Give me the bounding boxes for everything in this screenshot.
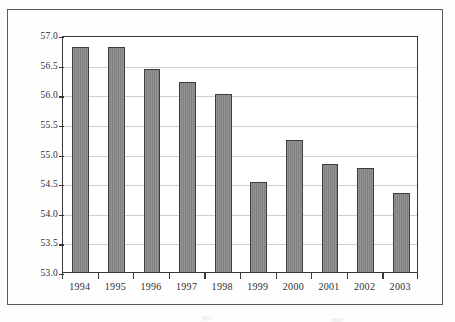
y-axis-label: 56.0 <box>4 90 58 100</box>
bar <box>250 182 267 272</box>
y-axis-label: 53.5 <box>4 238 58 248</box>
bar <box>144 69 161 272</box>
y-axis-label: 57.0 <box>4 31 58 41</box>
scanned-page: 57.056.556.055.555.054.554.053.553.0 199… <box>0 0 455 322</box>
y-axis-label: 53.0 <box>4 268 58 278</box>
bar <box>108 47 125 272</box>
y-axis-label: 54.5 <box>4 179 58 189</box>
x-tickmark <box>240 273 241 279</box>
y-axis-label: 55.0 <box>4 150 58 160</box>
y-axis-label: 55.5 <box>4 120 58 130</box>
x-tickmark <box>276 273 277 279</box>
x-axis-label: 1997 <box>176 281 197 292</box>
bar <box>179 82 196 272</box>
bar-chart: 57.056.556.055.555.054.554.053.553.0 199… <box>0 0 455 322</box>
x-tickmark <box>62 273 63 279</box>
y-axis-label: 54.0 <box>4 209 58 219</box>
y-tickmark <box>59 96 64 97</box>
x-axis-label: 1998 <box>212 281 233 292</box>
x-tickmark <box>382 273 383 279</box>
y-tickmark <box>59 244 64 245</box>
x-axis-label: 1995 <box>105 281 126 292</box>
x-axis-tickmarks <box>62 273 418 280</box>
y-axis: 57.056.556.055.555.054.554.053.553.0 <box>0 0 58 322</box>
bar <box>357 168 374 272</box>
x-axis: 1994199519961997199819992000200120022003 <box>62 281 418 301</box>
x-tickmark <box>347 273 348 279</box>
y-tickmark <box>59 67 64 68</box>
x-tickmark <box>133 273 134 279</box>
x-axis-label: 1994 <box>69 281 90 292</box>
bar <box>215 94 232 272</box>
bar <box>72 47 89 272</box>
x-axis-label: 2002 <box>354 281 375 292</box>
scan-artifact <box>330 318 344 322</box>
x-axis-label: 1999 <box>247 281 268 292</box>
y-tickmark <box>59 215 64 216</box>
x-axis-label: 2001 <box>318 281 339 292</box>
y-tickmark <box>59 37 64 38</box>
x-tickmark <box>417 273 418 279</box>
y-axis-label: 56.5 <box>4 61 58 71</box>
x-axis-label: 2003 <box>390 281 411 292</box>
scan-artifact <box>202 316 212 321</box>
x-axis-label: 1996 <box>140 281 161 292</box>
bar <box>322 164 339 272</box>
x-tickmark <box>311 273 312 279</box>
x-tickmark <box>169 273 170 279</box>
x-axis-label: 2000 <box>283 281 304 292</box>
bar <box>286 140 303 272</box>
plot-area <box>62 36 418 273</box>
x-tickmark <box>98 273 99 279</box>
y-tickmark <box>59 185 64 186</box>
bar <box>393 193 410 272</box>
y-tickmark <box>59 126 64 127</box>
x-tickmark <box>204 273 205 279</box>
y-tickmark <box>59 156 64 157</box>
